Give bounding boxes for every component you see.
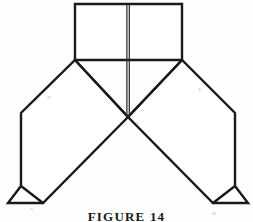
paper-speck <box>136 122 139 124</box>
paper-speck <box>198 88 201 91</box>
paper-speck <box>47 96 51 99</box>
top-rectangle-panel <box>75 4 182 60</box>
figure-line-drawing <box>0 0 253 222</box>
figure-page: FIGURE 14 <box>0 0 253 222</box>
figure-caption: FIGURE 14 <box>0 209 253 222</box>
